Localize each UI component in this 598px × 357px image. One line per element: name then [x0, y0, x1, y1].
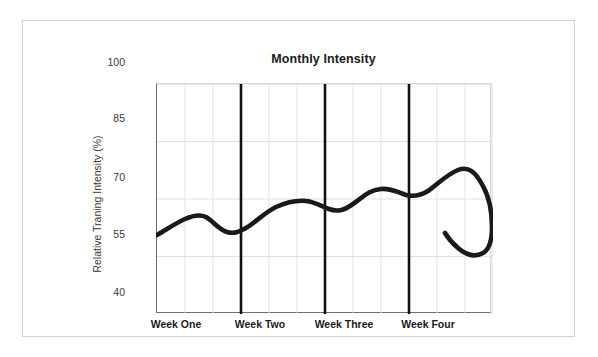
page-title: Monthly Intensity — [156, 52, 491, 66]
x-tick-label-week-one: Week One — [134, 318, 218, 330]
x-tick-label-week-four: Week Four — [386, 318, 470, 330]
y-axis-label: Relative Traning Intensity (%) — [91, 104, 103, 304]
chart-svg — [156, 83, 493, 315]
plot-area — [156, 83, 491, 313]
x-tick-label-week-two: Week Two — [218, 318, 302, 330]
chart-frame: Monthly Intensity Relative Traning Inten… — [22, 20, 575, 337]
x-tick-label-week-three: Week Three — [302, 318, 386, 330]
